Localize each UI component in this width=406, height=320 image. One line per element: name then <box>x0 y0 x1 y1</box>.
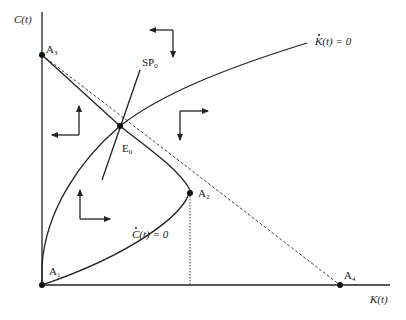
e0-sub: 0 <box>129 148 133 156</box>
e0-label: E0 <box>122 143 132 156</box>
a4-label: A4 <box>344 270 355 283</box>
a3-main: A <box>46 43 54 55</box>
a4-sub: 4 <box>352 275 356 283</box>
point-a2 <box>187 190 193 196</box>
a2-sub: 2 <box>206 193 210 201</box>
sp0-main: SP <box>142 56 154 68</box>
c-dot-zero-label: C(t) = 0 <box>132 229 168 240</box>
e0-main: E <box>122 142 129 154</box>
a3-label: A3 <box>46 44 57 57</box>
direction-arrow-left <box>52 106 79 135</box>
phase-diagram: C(t) K(t) K(t) = 0 C(t) = 0 SP0 E0 A3 A2… <box>0 0 406 320</box>
k-dot-symbol: K <box>315 36 322 47</box>
a1-label: A1 <box>49 266 60 279</box>
a2-label: A2 <box>198 188 209 201</box>
c-dot-suffix: (t) = 0 <box>139 228 168 240</box>
y-axis-label: C(t) <box>14 14 32 25</box>
point-e0 <box>117 123 123 129</box>
direction-arrow-top <box>150 30 173 57</box>
a3-sub: 3 <box>54 49 58 57</box>
a1-sub: 1 <box>57 271 61 279</box>
a1-main: A <box>49 265 57 277</box>
a2-main: A <box>198 187 206 199</box>
point-a3 <box>39 52 45 58</box>
a4-main: A <box>344 269 352 281</box>
point-a4 <box>337 282 343 288</box>
direction-arrow-bottom <box>80 190 110 219</box>
direction-arrow-right <box>180 111 208 140</box>
k-dot-suffix: (t) = 0 <box>322 35 351 47</box>
c-dot-symbol: C <box>132 229 139 240</box>
x-axis-label: K(t) <box>370 294 388 305</box>
k-dot-zero-label: K(t) = 0 <box>315 36 351 47</box>
sp0-sub: 0 <box>154 62 158 70</box>
point-a1 <box>39 282 45 288</box>
dashed-line-a3-a4 <box>42 55 340 285</box>
sp0-label: SP0 <box>142 57 158 70</box>
k-dot-zero-curve <box>42 43 307 285</box>
c-dot-zero-curve <box>42 55 190 285</box>
